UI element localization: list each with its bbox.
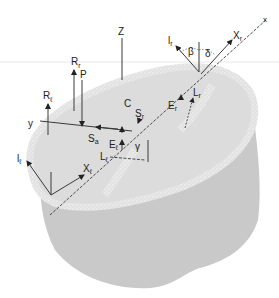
l-l-axis-label: lℓ xyxy=(17,153,22,165)
beta-label: β xyxy=(188,46,194,57)
z-label: Z xyxy=(118,26,124,37)
delta-label: δ xyxy=(205,48,211,59)
p-label: P xyxy=(80,69,87,80)
r-l-label: Rℓ xyxy=(43,90,53,103)
gamma-label: γ xyxy=(135,141,140,152)
l-r-axis-label: lr xyxy=(168,35,173,47)
r-r-label: Rr xyxy=(71,56,81,69)
x-label: x xyxy=(263,15,267,24)
diagram-canvas: Z x y C Rr P Rℓ Sa Sr Eℓ Lℓ γ Er Lr lr X… xyxy=(0,0,279,298)
mechanics-diagram: Z x y C Rr P Rℓ Sa Sr Eℓ Lℓ γ Er Lr lr X… xyxy=(0,0,279,298)
y-label: y xyxy=(28,118,33,129)
center-label: C xyxy=(124,98,131,109)
x-r-label: Xr xyxy=(233,30,243,42)
